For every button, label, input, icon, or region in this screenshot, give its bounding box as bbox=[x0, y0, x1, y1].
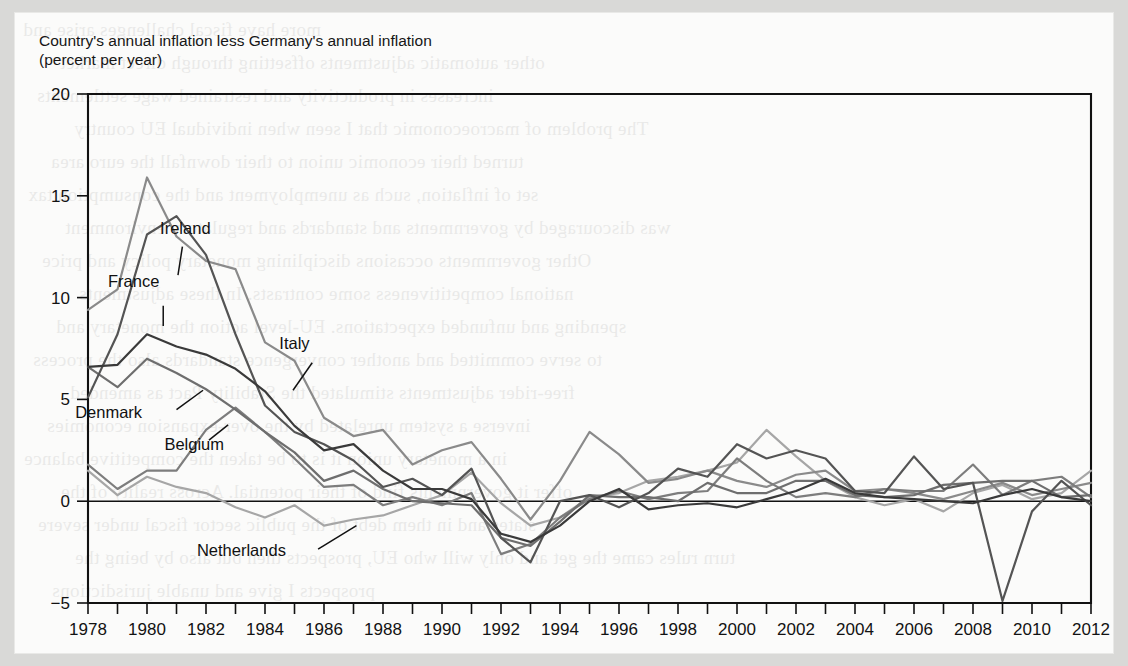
x-tick-label: 1988 bbox=[364, 620, 402, 639]
series-label-italy: Italy bbox=[279, 334, 310, 352]
annotation-leader-line-italy bbox=[293, 363, 312, 390]
x-tick-label: 1978 bbox=[69, 620, 107, 639]
x-tick-label: 2000 bbox=[718, 620, 756, 639]
x-tick-label: 1992 bbox=[482, 620, 520, 639]
y-tick-label: 5 bbox=[61, 390, 70, 409]
page-surface: more have fiscal challenges arise andoth… bbox=[14, 12, 1114, 654]
annotation-leader-line-netherlands bbox=[318, 526, 356, 549]
y-tick-label: −5 bbox=[51, 594, 70, 613]
x-tick-label: 1982 bbox=[187, 620, 225, 639]
y-tick-label: 0 bbox=[61, 492, 70, 511]
series-line-belgium bbox=[88, 408, 1091, 555]
series-line-netherlands bbox=[88, 430, 1091, 526]
y-tick-label: 15 bbox=[51, 187, 70, 206]
series-label-denmark: Denmark bbox=[75, 403, 143, 421]
page-border-frame: more have fiscal challenges arise andoth… bbox=[0, 0, 1128, 666]
data-series-group bbox=[88, 177, 1091, 600]
x-tick-label: 2012 bbox=[1072, 620, 1110, 639]
x-tick-label: 1994 bbox=[541, 620, 579, 639]
x-axis-tick-labels: 1978198019821984198619881990199219941996… bbox=[69, 620, 1110, 639]
x-tick-label: 2002 bbox=[777, 620, 815, 639]
chart-plot-area: −505101520 19781980198219841986198819901… bbox=[15, 13, 1114, 654]
y-axis-tick-labels: −505101520 bbox=[51, 85, 70, 613]
series-line-denmark bbox=[88, 359, 1091, 546]
series-label-belgium: Belgium bbox=[164, 435, 224, 453]
x-tick-label: 2006 bbox=[895, 620, 933, 639]
series-line-italy bbox=[88, 177, 1091, 519]
series-label-ireland: Ireland bbox=[160, 219, 210, 237]
inflation-differential-line-chart: −505101520 19781980198219841986198819901… bbox=[15, 13, 1114, 654]
x-tick-label: 1984 bbox=[246, 620, 284, 639]
x-tick-label: 2010 bbox=[1013, 620, 1051, 639]
y-tick-label: 20 bbox=[51, 85, 70, 104]
axis-ticks bbox=[77, 94, 1091, 614]
x-tick-label: 1998 bbox=[659, 620, 697, 639]
plot-border bbox=[88, 94, 1091, 603]
series-annotations-group: IrelandFranceItalyDenmarkBelgiumNetherla… bbox=[75, 219, 356, 559]
x-tick-label: 2004 bbox=[836, 620, 874, 639]
annotation-leader-line-ireland bbox=[178, 247, 182, 276]
axes-frame bbox=[88, 94, 1091, 603]
x-tick-label: 2008 bbox=[954, 620, 992, 639]
x-tick-label: 1990 bbox=[423, 620, 461, 639]
annotation-leader-line-denmark bbox=[177, 390, 204, 409]
x-tick-label: 1986 bbox=[305, 620, 343, 639]
series-label-netherlands: Netherlands bbox=[197, 541, 286, 559]
series-label-france: France bbox=[108, 272, 159, 290]
y-tick-label: 10 bbox=[51, 289, 70, 308]
x-tick-label: 1980 bbox=[128, 620, 166, 639]
x-tick-label: 1996 bbox=[600, 620, 638, 639]
